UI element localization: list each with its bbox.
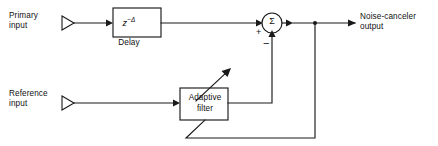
canceler-output-arrowhead-icon: [348, 19, 356, 26]
error-feedback-wire: [186, 23, 315, 138]
minus-input-sign-label: −: [263, 38, 270, 48]
summer-output-arrowhead-icon: [286, 19, 293, 26]
primary-input-label: Primary input: [9, 11, 38, 31]
delay-transfer-function-label: z−Δ: [98, 15, 160, 28]
primary-input-triangle-icon: [62, 16, 74, 30]
delay-caption-label: Delay: [98, 38, 160, 48]
delay-exponent-symbol: −Δ: [127, 16, 135, 23]
noise-canceler-output-label: Noise-canceler output: [360, 12, 416, 32]
reference-input-triangle-icon: [62, 96, 74, 110]
reference-input-label: Reference input: [9, 89, 48, 109]
adaptive-filter-label: Adaptive filter: [181, 93, 229, 114]
noise-canceller-block-diagram: Primary input Reference input Noise-canc…: [0, 0, 438, 146]
reference-input-arrowhead-icon: [173, 99, 180, 106]
summation-sigma-label: Σ: [264, 16, 280, 26]
plus-input-sign-label: +: [256, 27, 261, 37]
